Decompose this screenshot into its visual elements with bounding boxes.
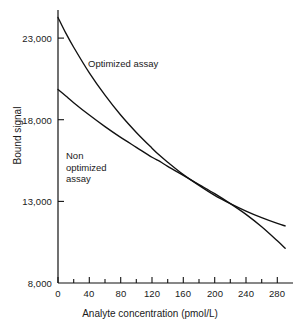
x-tick-label-160: 160 (175, 288, 191, 299)
y-tick-label-23000: 23,000 (8, 33, 52, 44)
x-tick-label-80: 80 (116, 288, 127, 299)
annotation-optimized-assay: Optimized assay (88, 58, 158, 70)
y-tick-label-13000: 13,000 (8, 196, 52, 207)
chart-figure: 23,000 18,000 13,000 8,000 0 40 80 120 1… (0, 0, 300, 330)
x-tick-label-200: 200 (207, 288, 223, 299)
x-tick-label-0: 0 (55, 288, 60, 299)
data-series (58, 17, 285, 248)
axes (58, 10, 293, 283)
y-axis-title: Bound signal (12, 81, 23, 191)
x-tick-label-240: 240 (238, 288, 254, 299)
y-axis-ticks (58, 38, 64, 201)
x-axis-title: Analyte concentration (pmol/L) (0, 308, 300, 319)
x-tick-label-120: 120 (144, 288, 160, 299)
x-tick-label-40: 40 (84, 288, 95, 299)
annotation-non-optimized-assay: Non optimized assay (66, 150, 107, 185)
y-tick-label-8000: 8,000 (8, 278, 52, 289)
series-line-optimized-assay (58, 17, 285, 225)
x-axis-ticks (58, 277, 277, 283)
x-tick-label-280: 280 (269, 288, 285, 299)
